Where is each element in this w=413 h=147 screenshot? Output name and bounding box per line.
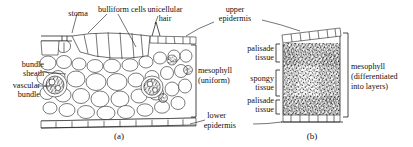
label-bundle-sheath-line2: sheath: [2, 69, 44, 78]
vascular-bundle-right: [141, 76, 163, 98]
label-vascular-bundle-line1: vascular: [0, 81, 40, 90]
panel-a-drawing: [37, 22, 196, 128]
leaf-cross-section-figure: stoma bulliform cells unicellular hair u…: [0, 0, 413, 147]
panel-b-drawing: [281, 28, 343, 122]
leader-lines: [37, 14, 348, 124]
label-mesophyll-differentiated-line2: (differentiated: [351, 72, 413, 81]
label-palisade-tissue-top-line2: tissue: [232, 53, 274, 62]
label-lower-epidermis-line1: lower: [196, 111, 226, 120]
label-mesophyll-differentiated-line1: mesophyll: [351, 62, 413, 71]
label-lower-epidermis-line2: epidermis: [186, 121, 236, 130]
label-spongy-tissue-line1: spongy: [232, 74, 274, 83]
label-upper-epidermis-line2: epidermis: [207, 14, 263, 23]
label-palisade-tissue-bottom-line2: tissue: [232, 105, 274, 114]
figure-caption-a: (a): [104, 131, 134, 141]
label-spongy-tissue-line2: tissue: [232, 83, 274, 92]
figure-caption-b: (b): [297, 131, 327, 141]
label-palisade-tissue-bottom-line1: palisade: [232, 96, 274, 105]
vascular-bundle-left: [43, 73, 67, 97]
label-unicellular-hair-line1: unicellular: [141, 5, 189, 14]
label-palisade-tissue-top-line1: palisade: [232, 44, 274, 53]
label-bundle-sheath-line1: bundle: [2, 60, 44, 69]
label-unicellular-hair-line2: hair: [141, 14, 189, 23]
label-upper-epidermis-line1: upper: [210, 5, 260, 14]
label-vascular-bundle-line2: bundle: [0, 90, 40, 99]
label-mesophyll-differentiated-line3: into layers): [351, 82, 413, 91]
